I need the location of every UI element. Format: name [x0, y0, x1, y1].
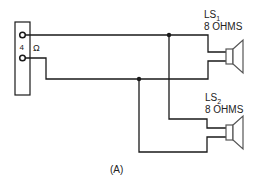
terminal-top-icon [20, 32, 26, 38]
speaker-ls1-icon [226, 40, 243, 73]
wire-top [25, 35, 226, 52]
impedance-number: 4 [20, 43, 25, 52]
impedance-unit: Ω [33, 43, 40, 53]
figure-caption: (A) [110, 164, 123, 175]
speaker-ls1-impedance: 8 OHMS [204, 21, 243, 32]
wire-bottom-to-ls2 [139, 79, 226, 152]
wiring-diagram: 4 Ω LS1 8 OHMS LS2 8 OHMS (A) [0, 0, 257, 184]
wire-bottom [25, 58, 226, 79]
terminal-bottom-icon [20, 55, 26, 61]
speaker-ls2-impedance: 8 OHMS [205, 104, 244, 115]
speaker-ls2-icon [226, 116, 243, 149]
